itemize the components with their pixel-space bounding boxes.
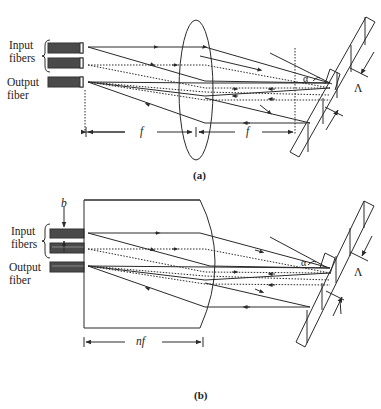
caption-b: (b): [194, 389, 207, 402]
grin-block-lens: [84, 200, 215, 328]
input-fibers-label-a-line1: Input: [9, 39, 33, 52]
focal-length-left-label: f: [140, 125, 143, 138]
fiber-spacing-label: b: [61, 197, 67, 210]
output-fiber-label-a-line1: Output: [7, 76, 39, 89]
output-fiber-label-b-line2: fiber: [9, 274, 31, 287]
block-length-label: nf: [136, 335, 145, 348]
input-fiber-1: [48, 43, 83, 53]
focal-length-right-label: f: [246, 125, 249, 138]
input-fibers-brace: [42, 224, 50, 258]
optical-diagram: [0, 0, 381, 409]
input-fibers-label-a-line2: fibers: [9, 52, 35, 65]
figure-container: [0, 0, 381, 409]
grating-period-label-a: Λ: [354, 82, 362, 95]
panel-a: [42, 17, 375, 160]
blaze-angle-label-a: α: [303, 72, 308, 85]
input-fibers-label-b-line2: fibers: [11, 238, 37, 251]
input-fiber-2: [48, 58, 83, 68]
input-fiber-1: [50, 229, 84, 238]
output-fiber: [48, 77, 83, 87]
input-fibers-label-b-line1: Input: [11, 225, 35, 238]
grating-period-label-b: Λ: [354, 266, 362, 279]
output-fiber: [50, 262, 84, 272]
input-fiber-2: [50, 243, 84, 253]
panel-b: [42, 200, 374, 347]
blaze-angle-label-b: α: [301, 256, 306, 269]
output-fiber-label-a-line2: fiber: [7, 89, 29, 102]
output-fiber-label-b-line1: Output: [9, 261, 41, 274]
caption-a: (a): [193, 169, 206, 182]
